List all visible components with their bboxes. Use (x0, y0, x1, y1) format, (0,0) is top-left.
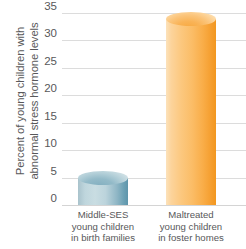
y-tick-label-10: 10 (33, 138, 57, 149)
plot-area: 35 30 25 20 15 10 5 0 (62, 13, 246, 205)
x-axis-labels: Middle-SES young children in birth famil… (62, 209, 246, 249)
y-tick-label-30: 30 (33, 28, 57, 39)
y-tick-label-25: 25 (33, 56, 57, 67)
bar-body (166, 19, 216, 206)
bar-maltreated-foster-homes[interactable] (166, 19, 216, 206)
y-tick-label-5: 5 (33, 166, 57, 177)
bar-top-cap (166, 12, 216, 26)
x-label-line-3: in birth families (57, 232, 149, 244)
y-axis-title-line-2: abnormal stress hormone levels (27, 22, 42, 179)
bar-top-cap (78, 171, 128, 185)
gridline-25: 25 (62, 68, 246, 69)
y-tick-label-20: 20 (33, 83, 57, 94)
y-tick-label-15: 15 (33, 111, 57, 122)
y-axis-title-line-1: Percent of young children with (13, 27, 28, 175)
gridline-0: 0 (62, 205, 246, 206)
y-tick-label-0: 0 (33, 193, 57, 204)
gridline-30: 30 (62, 40, 246, 41)
x-label-line-3: in foster homes (145, 232, 237, 244)
x-label-middle-ses-birth-families: Middle-SES young children in birth famil… (57, 209, 149, 244)
bar-chart: Percent of young children with abnormal … (0, 0, 246, 249)
gridline-15: 15 (62, 123, 246, 124)
gridline-35: 35 (62, 13, 246, 14)
bar-middle-ses-birth-families[interactable] (78, 178, 128, 205)
x-label-line-1: Maltreated (145, 209, 237, 221)
gridline-10: 10 (62, 150, 246, 151)
x-label-line-2: young children (145, 221, 237, 233)
y-tick-label-35: 35 (33, 1, 57, 12)
x-label-line-1: Middle-SES (57, 209, 149, 221)
gridline-20: 20 (62, 95, 246, 96)
x-label-line-2: young children (57, 221, 149, 233)
x-label-maltreated-foster-homes: Maltreated young children in foster home… (145, 209, 237, 244)
